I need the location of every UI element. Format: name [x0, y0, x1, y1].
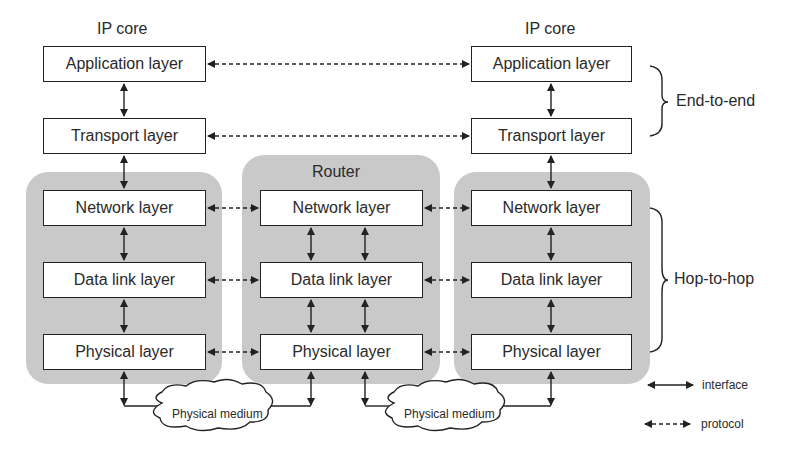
physical-medium-right: Physical medium [404, 407, 495, 421]
legend-interface-label: interface [702, 378, 748, 392]
legend-protocol-label: protocol [701, 417, 744, 431]
hop-to-hop-label: Hop-to-hop [674, 270, 754, 288]
connector-lines [0, 0, 788, 473]
end-to-end-label: End-to-end [676, 92, 755, 110]
physical-medium-left: Physical medium [172, 407, 263, 421]
